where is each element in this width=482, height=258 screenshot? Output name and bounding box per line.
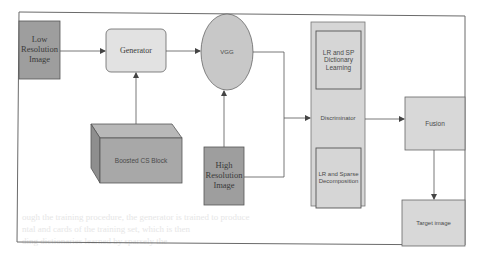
boosted-cs-block-label: Boosted CS Block xyxy=(100,138,182,183)
low-res-image-label: Low Resolution Image xyxy=(19,21,60,79)
discriminator-label: Discriminator xyxy=(311,110,365,126)
vgg-label: VGG xyxy=(201,14,253,90)
edge-highres-discriminator xyxy=(244,118,284,177)
edge-vgg-discriminator xyxy=(253,52,310,118)
lr-sparse-decomposition-label: LR and Sparse Decomposition xyxy=(316,148,361,208)
high-res-image-label: High Resolution Image xyxy=(204,147,244,205)
generator-label: Generator xyxy=(106,29,166,72)
lr-sp-dictionary-label: LR and SP Dictionary Learning xyxy=(316,31,361,89)
target-image-label: Target image xyxy=(402,200,465,246)
fusion-label: Fusion xyxy=(405,97,465,150)
